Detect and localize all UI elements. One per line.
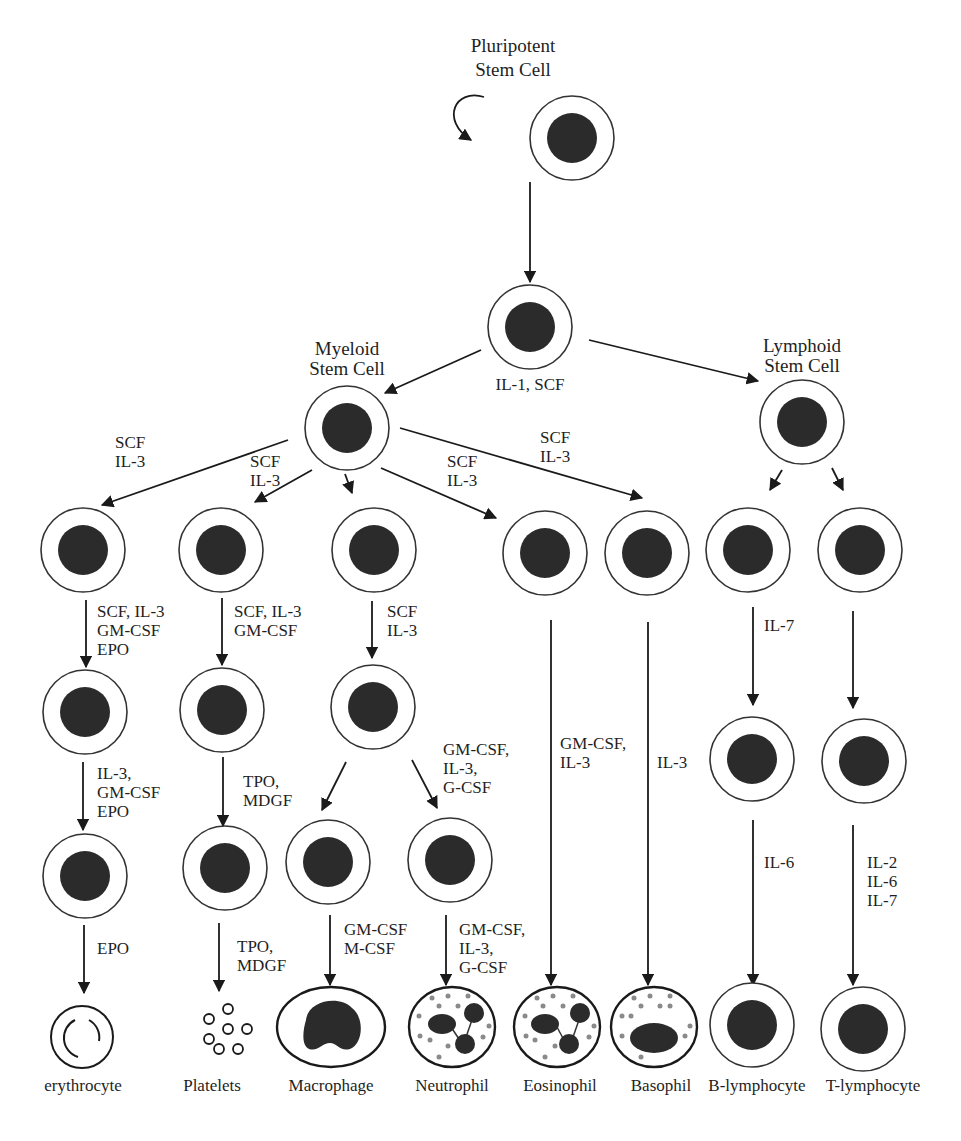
t-cell-progenitor [818, 508, 902, 592]
erythrocyte-icon [51, 1006, 113, 1068]
basophil-icon [611, 987, 697, 1067]
row2-cells [41, 508, 902, 595]
monocyte [286, 820, 370, 904]
granulocyte-monocyte-precursor [331, 665, 415, 749]
arrow-lymphoid-to-b [770, 470, 782, 490]
pre-t-cell [822, 719, 906, 803]
factor-label: SCF [115, 433, 145, 452]
arrow-to-myeloid [385, 350, 481, 393]
factor-label: MDGF [243, 791, 292, 810]
erythroid-progenitor [41, 508, 125, 592]
factor-label: IL-6 [764, 853, 794, 872]
hematopoiesis-diagram: Pluripotent Stem Cell IL-1, SCF Myeloid … [0, 0, 961, 1141]
factor-label: SCF [250, 452, 280, 471]
neutrophil-icon [409, 987, 495, 1067]
final-label-t-lymphocyte: T-lymphocyte [826, 1076, 921, 1095]
pluripotent-label-line2: Stem Cell [475, 59, 550, 80]
b-lymphocyte-icon [710, 983, 794, 1067]
arrow-myeloid-to-eosino [381, 468, 496, 518]
factor-label: TPO, [237, 937, 273, 956]
final-label-basophil: Basophil [631, 1076, 692, 1095]
erythroblast [43, 670, 127, 754]
factor-label: IL-3 [387, 621, 417, 640]
factor-label: GM-CSF [234, 621, 297, 640]
factor-label: IL-2 [867, 853, 897, 872]
factor-label: IL-3 [447, 471, 477, 490]
factor-label: IL-3 [115, 452, 145, 471]
lymphoid-stem-cell: Lymphoid Stem Cell [760, 335, 844, 464]
factor-label: G-CSF [459, 958, 507, 977]
myeloid-label-line2: Stem Cell [309, 358, 384, 379]
factor-label: EPO [97, 939, 129, 958]
self-renewal-arrow-icon [454, 95, 484, 140]
factor-label: GM-CSF [344, 920, 407, 939]
arrow-to-monocyte [322, 762, 346, 810]
factor-label: M-CSF [344, 939, 395, 958]
final-label-platelets: Platelets [183, 1076, 241, 1095]
factor-label: IL-3, [443, 759, 477, 778]
factor-label: SCF, IL-3 [234, 602, 302, 621]
final-label-b-lymphocyte: B-lymphocyte [708, 1076, 805, 1095]
factor-label: G-CSF [443, 778, 491, 797]
platelets-icon [204, 1004, 252, 1054]
neutrophil-precursor [408, 818, 492, 902]
final-label-eosinophil: Eosinophil [523, 1076, 597, 1095]
factor-label: GM-CSF [97, 621, 160, 640]
arrow-lymphoid-to-t [832, 468, 843, 490]
lymphoid-label-line2: Stem Cell [764, 355, 839, 376]
eosinophil-progenitor [503, 511, 587, 595]
megakaryocyte [183, 826, 267, 910]
factor-label: MDGF [237, 956, 286, 975]
basophil-progenitor [605, 511, 689, 595]
final-label-macrophage: Macrophage [289, 1076, 374, 1095]
megakaryocyte-progenitor [179, 508, 263, 592]
factor-label: SCF [387, 602, 417, 621]
b-cell-progenitor [706, 508, 790, 592]
megakaryoblast [180, 668, 264, 752]
pre-b-cell [710, 717, 794, 801]
myeloid-stem-cell: Myeloid Stem Cell [305, 338, 389, 470]
macrophage-icon [277, 987, 385, 1067]
t-lymphocyte-icon [821, 987, 905, 1071]
arrow-myeloid-to-gm [345, 474, 352, 493]
factor-label: GM-CSF, [459, 920, 525, 939]
factor-label: GM-CSF [97, 783, 160, 802]
progenitor-factor-label: IL-1, SCF [496, 375, 565, 394]
multipotent-progenitor-cell: IL-1, SCF [488, 285, 572, 394]
granulocyte-monocyte-progenitor [332, 508, 416, 592]
pluripotent-stem-cell: Pluripotent Stem Cell [471, 35, 614, 180]
pluripotent-label-line1: Pluripotent [471, 35, 556, 56]
factor-label: IL-7 [867, 891, 898, 910]
factor-label: EPO [97, 640, 129, 659]
arrow-to-lymphoid [589, 340, 758, 381]
factor-label: IL-6 [867, 872, 897, 891]
factor-label: IL-3 [657, 753, 687, 772]
myeloid-label-line1: Myeloid [315, 338, 380, 359]
factor-label: IL-3 [250, 471, 280, 490]
factor-label: GM-CSF, [443, 740, 509, 759]
factor-label: GM-CSF, [560, 734, 626, 753]
arrow-myeloid-to-baso [400, 428, 642, 498]
factor-label: TPO, [243, 772, 279, 791]
factor-label: SCF [447, 452, 477, 471]
final-label-erythrocyte: erythrocyte [44, 1076, 121, 1095]
arrow-to-neutrophil-precursor [412, 760, 437, 808]
eosinophil-icon [514, 987, 600, 1067]
factor-label: IL-3, [97, 764, 131, 783]
final-label-neutrophil: Neutrophil [415, 1076, 489, 1095]
factor-label: IL-3, [459, 939, 493, 958]
lymphoid-label-line1: Lymphoid [763, 335, 842, 356]
factor-label: SCF, IL-3 [97, 602, 165, 621]
factor-label: IL-3 [560, 753, 590, 772]
factor-label: IL-3 [540, 447, 570, 466]
factor-label: EPO [97, 802, 129, 821]
factor-label: SCF [540, 428, 570, 447]
reticulocyte [43, 834, 127, 918]
factor-label: IL-7 [764, 616, 795, 635]
